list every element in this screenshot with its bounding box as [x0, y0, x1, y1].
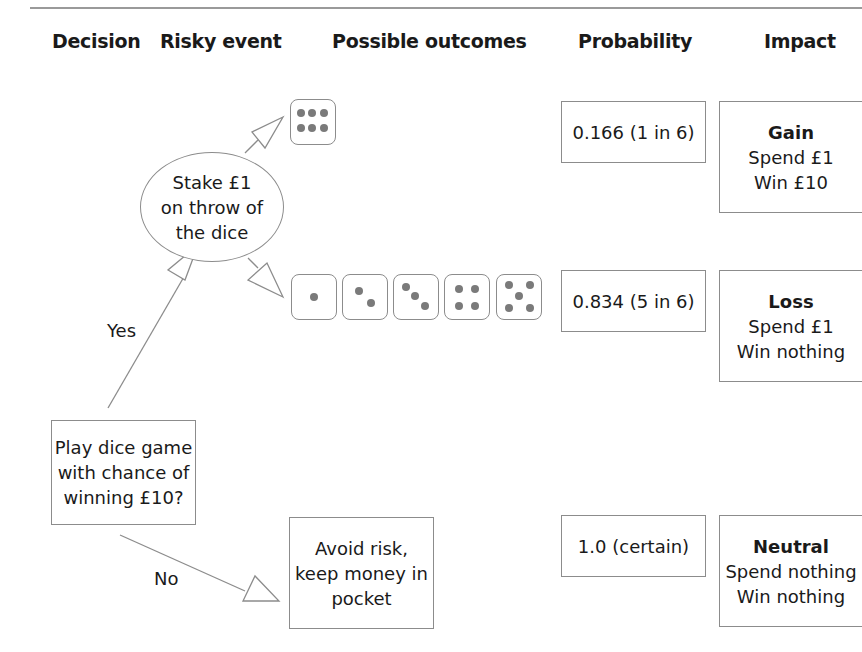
- decision-line-3: winning £10?: [63, 485, 183, 510]
- probability-lose: 0.834 (5 in 6): [561, 270, 706, 332]
- avoid-line-2: keep money in: [295, 561, 428, 586]
- impact-neutral-line1: Spend nothing: [725, 559, 856, 584]
- probability-avoid: 1.0 (certain): [561, 515, 706, 577]
- probability-lose-text: 0.834 (5 in 6): [572, 289, 694, 314]
- die-six-icon: [290, 99, 336, 145]
- risky-event-node: Stake £1 on throw of the dice: [140, 152, 284, 262]
- decision-line-1: Play dice game: [55, 435, 192, 460]
- die-five-icon: [496, 274, 542, 320]
- probability-win-text: 0.166 (1 in 6): [572, 120, 694, 145]
- risky-event-line-1: Stake £1: [173, 170, 252, 195]
- impact-loss-title: Loss: [768, 289, 813, 314]
- no-arrow-icon: [243, 576, 279, 601]
- impact-gain-line2: Win £10: [754, 170, 828, 195]
- probability-win: 0.166 (1 in 6): [561, 101, 706, 163]
- avoid-line-1: Avoid risk,: [315, 536, 408, 561]
- decision-node: Play dice game with chance of winning £1…: [51, 420, 196, 525]
- win-arrow-icon: [252, 117, 283, 148]
- impact-loss: Loss Spend £1 Win nothing: [719, 270, 862, 382]
- avoid-line-3: pocket: [331, 586, 391, 611]
- risky-event-line-3: the dice: [176, 220, 249, 245]
- avoid-risk-outcome: Avoid risk, keep money in pocket: [289, 517, 434, 629]
- impact-neutral-line2: Win nothing: [737, 584, 845, 609]
- die-three-icon: [393, 274, 439, 320]
- lose-arrow-icon: [248, 263, 283, 297]
- impact-loss-line2: Win nothing: [737, 339, 845, 364]
- yes-label: Yes: [107, 320, 136, 341]
- impact-neutral-title: Neutral: [753, 534, 829, 559]
- die-two-icon: [342, 274, 388, 320]
- impact-neutral: Neutral Spend nothing Win nothing: [719, 515, 862, 627]
- impact-gain: Gain Spend £1 Win £10: [719, 101, 862, 213]
- no-label: No: [154, 568, 178, 589]
- decision-line-2: with chance of: [58, 460, 190, 485]
- die-one-icon: [291, 274, 337, 320]
- risky-event-line-2: on throw of: [161, 195, 263, 220]
- impact-gain-line1: Spend £1: [748, 145, 833, 170]
- impact-gain-title: Gain: [768, 120, 814, 145]
- impact-loss-line1: Spend £1: [748, 314, 833, 339]
- probability-avoid-text: 1.0 (certain): [578, 534, 689, 559]
- die-four-icon: [444, 274, 490, 320]
